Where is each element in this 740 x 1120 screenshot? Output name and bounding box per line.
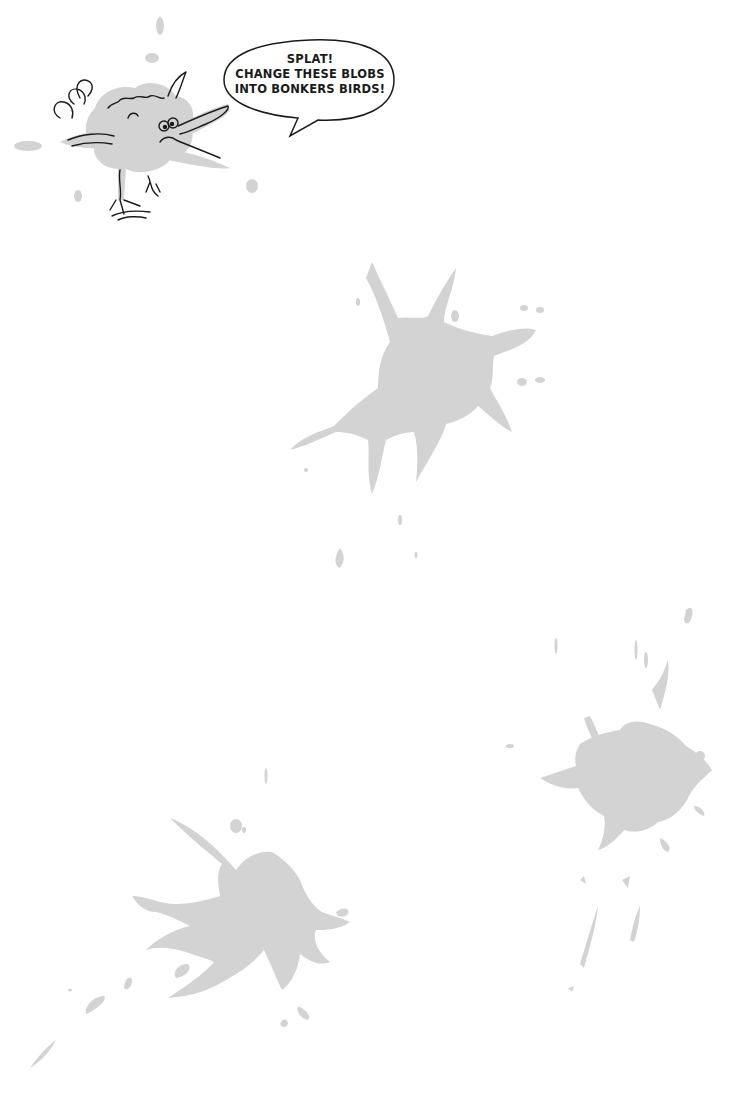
speech-line-1: SPLAT!	[232, 52, 388, 67]
speech-bubble-text: SPLAT! CHANGE THESE BLOBS INTO BONKERS B…	[232, 52, 388, 97]
example-bird-illustration	[14, 17, 258, 220]
worksheet-artwork	[0, 0, 740, 1120]
blob-bottom-left	[30, 768, 350, 1068]
blob-bottom-right	[506, 608, 712, 992]
speech-line-3: INTO BONKERS BIRDS!	[232, 82, 388, 97]
speech-line-2: CHANGE THESE BLOBS	[232, 67, 388, 82]
blob-center	[290, 262, 545, 568]
